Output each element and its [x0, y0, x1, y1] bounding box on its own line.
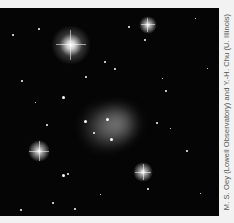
- bright-star: [51, 25, 91, 65]
- photo-credit-caption: M. S. Oey (Lowell Observatory) and Y.-H.…: [222, 14, 231, 210]
- bright-star: [139, 16, 157, 34]
- nebula-lobe: [100, 103, 140, 143]
- star-field-photo: [0, 8, 219, 216]
